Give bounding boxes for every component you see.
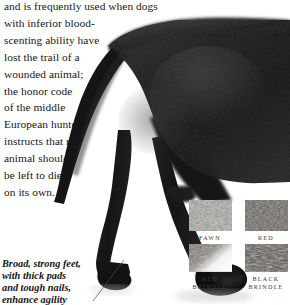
swatch-label-red: RED (258, 234, 274, 243)
red-coat-texture (245, 200, 288, 231)
swatch-label-red-brindle: RED BRINDLE (192, 275, 227, 292)
feet-caption: Broad, strong feet, with thick pads and … (2, 258, 98, 305)
red-brindle-coat-texture (189, 244, 232, 272)
swatch-red-brindle[interactable]: RED BRINDLE (186, 244, 234, 292)
swatch-red[interactable]: RED (242, 200, 290, 244)
book-page: and is frequently used when dogs with in… (0, 0, 290, 305)
swatch-fawn[interactable]: FAWN (186, 200, 234, 244)
caption-leader-line (90, 255, 130, 305)
swatch-label-black-brindle: BLACK BRINDLE (248, 275, 283, 292)
fawn-coat-texture (189, 200, 232, 231)
coat-color-swatch-panel: FAWN RED (186, 200, 290, 305)
body-paragraph: and is frequently used when dogs with in… (4, 0, 186, 201)
swatch-black-brindle[interactable]: BLACK BRINDLE (242, 244, 290, 292)
swatch-label-fawn: FAWN (199, 234, 221, 243)
black-brindle-coat-texture (245, 244, 288, 272)
